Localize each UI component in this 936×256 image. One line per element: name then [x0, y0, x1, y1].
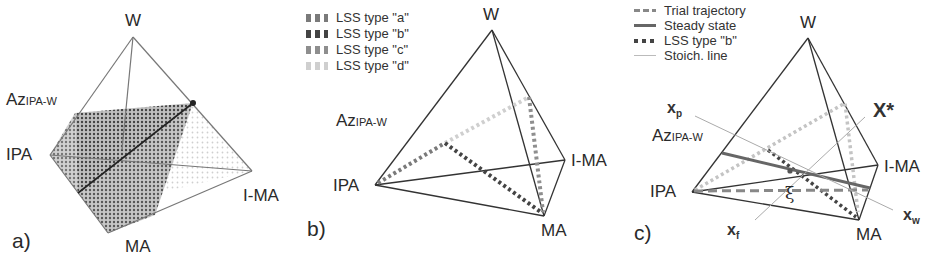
panel-a-vertex-ipa: IPA	[6, 146, 32, 163]
panel-b-label: b)	[307, 218, 326, 239]
panel-a-label: a)	[12, 230, 31, 251]
panel-a-vertex-ma: MA	[125, 238, 151, 255]
legend-item: LSS type "b"	[306, 26, 409, 42]
panel-c-vertex-ipa: IPA	[650, 183, 676, 200]
panel-b-legend: LSS type "a" LSS type "b" LSS type "c" L…	[306, 10, 409, 74]
legend-item: LSS type "d"	[306, 58, 409, 74]
legend-item: LSS type "a"	[306, 10, 409, 26]
xstar-label: X*	[873, 100, 894, 120]
panel-b-vertex-ma: MA	[541, 222, 567, 239]
panel-c-label: c)	[634, 222, 652, 243]
panel-b-vertex-az: AzIPA-W	[336, 112, 387, 129]
panel-a-vertex-az: AzIPA-W	[6, 91, 57, 108]
xw-label: xw	[903, 207, 920, 226]
az-label: Az	[6, 90, 26, 109]
panel-c-vertex-ma: MA	[856, 226, 882, 243]
panel-c-vertex-az: AzIPA-W	[652, 127, 703, 144]
legend-item: Steady state	[634, 18, 746, 33]
panel-b-vertex-ima: I-MA	[571, 152, 607, 169]
panel-a-vertex-ima: I-MA	[243, 187, 279, 204]
figure: W AzIPA-W IPA I-MA MA a) LSS type "a" LS…	[0, 0, 936, 256]
panel-a-vertex-w: W	[125, 12, 141, 29]
xf-label: xf	[727, 222, 739, 241]
legend-item: Trial trajectory	[634, 3, 746, 18]
tetrahedra-drawing	[0, 0, 936, 256]
panel-c-vertex-w: W	[800, 14, 816, 31]
panel-a-tetrahedron	[50, 37, 252, 233]
legend-item: LSS type "c"	[306, 42, 409, 58]
panel-b-vertex-ipa: IPA	[333, 177, 359, 194]
az-subscript: IPA-W	[26, 95, 57, 107]
panel-c-vertex-ima: I-MA	[884, 158, 920, 175]
legend-item: LSS type "b"	[634, 33, 746, 48]
panel-b-vertex-w: W	[483, 6, 499, 23]
legend-item: Stoich. line	[634, 48, 746, 63]
panel-c-legend: Trial trajectory Steady state LSS type "…	[634, 3, 746, 63]
xp-label: xp	[667, 100, 682, 119]
xi-label: ξ	[785, 185, 794, 202]
